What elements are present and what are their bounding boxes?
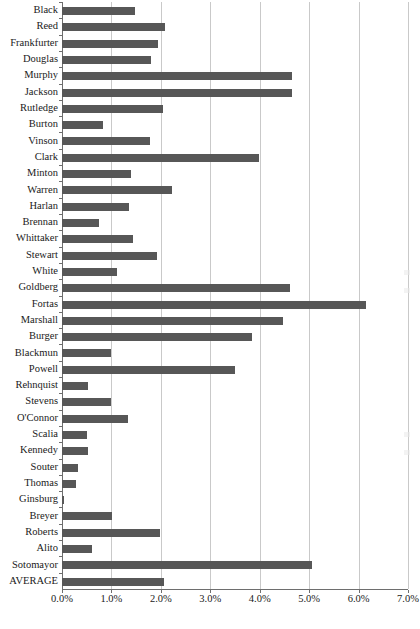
bar-row — [62, 344, 408, 360]
bar — [62, 578, 164, 586]
bar — [62, 349, 111, 357]
bar — [62, 137, 150, 145]
bar — [62, 89, 292, 97]
category-label: Whittaker — [0, 232, 58, 243]
category-label: Brennan — [0, 216, 58, 227]
bar — [62, 415, 128, 423]
bar-chart: BlackReedFrankfurterDouglasMurphyJackson… — [0, 0, 420, 629]
x-axis-tick-label: 3.0% — [199, 593, 221, 605]
x-axis-tick — [210, 590, 211, 593]
bar-row — [62, 116, 408, 132]
bar — [62, 23, 165, 31]
category-label: Goldberg — [0, 281, 58, 292]
bar — [62, 154, 259, 162]
bar — [62, 447, 88, 455]
bar-row — [62, 361, 408, 377]
bar-series — [62, 2, 408, 589]
bar-row — [62, 35, 408, 51]
category-label: Fortas — [0, 298, 58, 309]
category-axis-labels: BlackReedFrankfurterDouglasMurphyJackson… — [0, 2, 58, 589]
bar — [62, 398, 111, 406]
x-axis-tick — [62, 590, 63, 593]
bar — [62, 72, 292, 80]
bar-row — [62, 84, 408, 100]
category-label: Rutledge — [0, 102, 58, 113]
bar-row — [62, 491, 408, 507]
bar-row — [62, 410, 408, 426]
x-axis-tick-label: 2.0% — [150, 593, 172, 605]
bar-row — [62, 165, 408, 181]
scan-artifact — [404, 432, 410, 437]
category-label: Scalia — [0, 428, 58, 439]
x-axis-tick-label: 7.0% — [397, 593, 419, 605]
bar — [62, 105, 163, 113]
x-axis-tick-label: 1.0% — [100, 593, 122, 605]
scan-artifact — [404, 288, 410, 293]
x-axis-tick-label: 0.0% — [51, 593, 73, 605]
bar-row — [62, 540, 408, 556]
category-label: Stevens — [0, 395, 58, 406]
bar — [62, 480, 76, 488]
scan-artifact — [404, 270, 410, 275]
bar — [62, 496, 64, 504]
category-label: Rehnquist — [0, 379, 58, 390]
bar — [62, 203, 129, 211]
bar-row — [62, 51, 408, 67]
category-label: Ginsburg — [0, 493, 58, 504]
bar-row — [62, 442, 408, 458]
category-label: Reed — [0, 20, 58, 31]
bar — [62, 301, 366, 309]
bar-row — [62, 279, 408, 295]
bar — [62, 529, 160, 537]
x-axis-tick — [161, 590, 162, 593]
category-label: Frankfurter — [0, 37, 58, 48]
category-label: Powell — [0, 363, 58, 374]
category-label: AVERAGE — [0, 575, 58, 586]
bar — [62, 317, 283, 325]
bar — [62, 56, 151, 64]
bar — [62, 186, 172, 194]
category-label: Vinson — [0, 135, 58, 146]
bar-row — [62, 475, 408, 491]
bar-row — [62, 214, 408, 230]
category-label: Souter — [0, 461, 58, 472]
x-axis-tick — [111, 590, 112, 593]
bar-row — [62, 181, 408, 197]
x-axis-tick-label: 6.0% — [348, 593, 370, 605]
x-axis-tick — [309, 590, 310, 593]
bar — [62, 7, 135, 15]
category-label: Stewart — [0, 249, 58, 260]
bar-row — [62, 426, 408, 442]
bar-row — [62, 312, 408, 328]
plot-area — [62, 2, 408, 589]
bar-row — [62, 524, 408, 540]
category-label: Thomas — [0, 477, 58, 488]
bar — [62, 431, 87, 439]
bar — [62, 464, 78, 472]
category-label: Jackson — [0, 86, 58, 97]
category-label: Sotomayor — [0, 559, 58, 570]
x-axis-tick — [260, 590, 261, 593]
bar — [62, 268, 117, 276]
category-label: Alito — [0, 542, 58, 553]
bar — [62, 333, 252, 341]
bar-row — [62, 100, 408, 116]
bar-row — [62, 247, 408, 263]
category-label: Breyer — [0, 510, 58, 521]
category-label: Douglas — [0, 53, 58, 64]
bar-row — [62, 459, 408, 475]
bar — [62, 366, 235, 374]
category-label: Minton — [0, 167, 58, 178]
bar-row — [62, 230, 408, 246]
category-label: Kennedy — [0, 444, 58, 455]
category-label: O'Connor — [0, 412, 58, 423]
bar-row — [62, 377, 408, 393]
x-axis-line — [62, 589, 408, 590]
category-label: Burger — [0, 330, 58, 341]
category-label: Blackmun — [0, 347, 58, 358]
scan-artifact — [404, 450, 410, 455]
bar — [62, 121, 103, 129]
bar-row — [62, 328, 408, 344]
x-axis-tick — [408, 590, 409, 593]
gridline-70 — [408, 2, 409, 589]
